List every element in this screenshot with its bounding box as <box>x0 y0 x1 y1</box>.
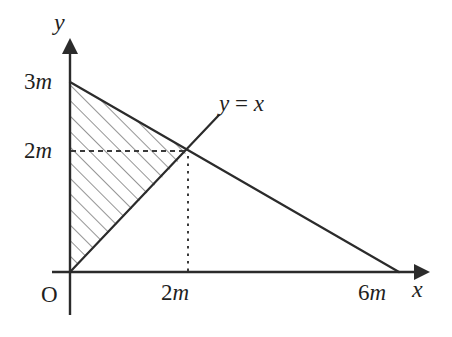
graph-figure: y x O 3m 2m 2m 6m y = x <box>0 0 452 337</box>
equation-rhs: x <box>254 91 264 116</box>
x-tick-label-2m: 2m <box>161 281 189 304</box>
y-tick-2m-number: 2 <box>24 138 36 163</box>
hatched-triangle <box>70 82 188 272</box>
y-axis-arrow-icon <box>62 38 78 54</box>
x-tick-2m-number: 2 <box>161 280 173 305</box>
x-axis <box>52 264 430 280</box>
y-tick-3m-number: 3 <box>24 69 36 94</box>
x-axis-label: x <box>412 277 423 301</box>
x-tick-2m-unit: m <box>173 280 190 305</box>
y-tick-label-3m: 3m <box>24 70 52 93</box>
shaded-region <box>70 82 188 272</box>
y-axis-label: y <box>54 10 65 34</box>
y-tick-2m-unit: m <box>36 138 53 163</box>
x-tick-label-6m: 6m <box>358 281 386 304</box>
equation-lhs: y <box>219 91 229 116</box>
equation-equals-sign: = <box>235 91 248 116</box>
y-tick-3m-unit: m <box>36 69 53 94</box>
origin-label: O <box>41 283 58 306</box>
y-tick-label-2m: 2m <box>24 139 52 162</box>
x-tick-6m-unit: m <box>370 280 387 305</box>
x-tick-6m-number: 6 <box>358 280 370 305</box>
line-equation-label: y = x <box>219 92 264 115</box>
